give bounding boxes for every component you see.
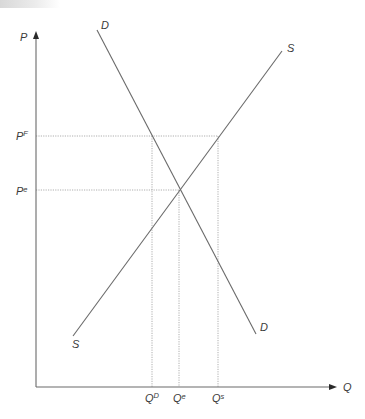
supply-label-bottom: S	[72, 338, 80, 350]
supply-label-top: S	[287, 42, 295, 54]
axes	[36, 38, 331, 387]
supply-demand-diagram: P Q D D S S PF Pe QD Qe Qs	[0, 0, 365, 419]
x-axis-label: Q	[343, 381, 352, 393]
price-floor-label: PF	[16, 129, 28, 142]
quantity-supplied-label: Qs	[212, 392, 225, 404]
supply-curve	[73, 51, 282, 336]
y-axis-label: P	[20, 31, 28, 43]
demand-label-bottom: D	[260, 321, 268, 333]
quantity-equilibrium-label: Qe	[173, 392, 186, 404]
x-axis-arrow-icon	[329, 384, 337, 390]
demand-curve	[97, 30, 256, 334]
quantity-demanded-label: QD	[145, 391, 160, 404]
price-equilibrium-label: Pe	[16, 185, 28, 197]
y-axis-arrow-icon	[33, 31, 39, 39]
demand-label-top: D	[101, 19, 109, 31]
